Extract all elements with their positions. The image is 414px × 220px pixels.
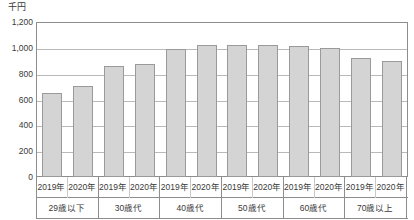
bar — [227, 45, 247, 177]
y-axis-tick: 800 — [19, 69, 33, 78]
bar — [166, 49, 186, 177]
bar — [382, 61, 402, 177]
bar — [320, 48, 340, 177]
y-axis-unit-label: 千円 — [8, 2, 26, 13]
x-axis-group-separator — [344, 177, 345, 219]
x-axis-group-label: 30歳代 — [98, 198, 160, 219]
bars-layer — [37, 22, 407, 177]
y-axis-tick: 600 — [19, 95, 33, 104]
x-axis-group-separator — [159, 177, 160, 219]
x-axis-year-label: 2020年 — [129, 177, 160, 198]
x-axis-year-label: 2019年 — [159, 177, 190, 198]
x-axis-year-label: 2019年 — [36, 177, 67, 198]
x-axis-group-separator — [283, 177, 284, 219]
x-axis-group-label: 50歳代 — [221, 198, 283, 219]
y-axis-tick: 0 — [28, 173, 33, 182]
y-axis-tick: 1,200 — [12, 18, 33, 27]
bar — [197, 45, 217, 177]
x-axis-year-label: 2019年 — [283, 177, 314, 198]
x-axis-year-label: 2020年 — [314, 177, 345, 198]
x-axis-inner-separator — [314, 177, 315, 198]
x-axis-inner-separator — [375, 177, 376, 198]
bar — [42, 93, 62, 177]
x-axis: 29歳以下2019年2020年30歳代2019年2020年40歳代2019年20… — [36, 177, 408, 220]
x-axis-group-separator — [221, 177, 222, 219]
y-axis-tick: 400 — [19, 121, 33, 130]
bar — [104, 66, 124, 177]
x-axis-inner-separator — [252, 177, 253, 198]
x-axis-edge-separator — [36, 177, 37, 219]
x-axis-year-label: 2020年 — [190, 177, 221, 198]
x-axis-year-label: 2020年 — [375, 177, 406, 198]
x-axis-group-label: 60歳代 — [283, 198, 345, 219]
x-axis-year-label: 2020年 — [252, 177, 283, 198]
bar — [135, 64, 155, 177]
x-axis-group-label: 70歳以上 — [344, 198, 406, 219]
x-axis-inner-separator — [67, 177, 68, 198]
bar — [73, 86, 93, 177]
x-axis-inner-separator — [190, 177, 191, 198]
x-axis-group-separator — [98, 177, 99, 219]
y-axis-tick: 200 — [19, 147, 33, 156]
bar — [258, 45, 278, 177]
x-axis-year-label: 2019年 — [98, 177, 129, 198]
y-axis-tick-labels: 02004006008001,0001,200 — [0, 22, 33, 177]
x-axis-group-label: 40歳代 — [159, 198, 221, 219]
x-axis-year-label: 2020年 — [67, 177, 98, 198]
x-axis-edge-separator — [406, 177, 407, 219]
x-axis-inner-separator — [129, 177, 130, 198]
bar — [351, 58, 371, 177]
x-axis-year-label: 2019年 — [221, 177, 252, 198]
x-axis-year-label: 2019年 — [344, 177, 375, 198]
y-axis-tick: 1,000 — [12, 43, 33, 52]
bar — [289, 46, 309, 177]
bar-chart: 千円 02004006008001,0001,200 29歳以下2019年202… — [0, 0, 414, 220]
x-axis-group-label: 29歳以下 — [36, 198, 98, 219]
